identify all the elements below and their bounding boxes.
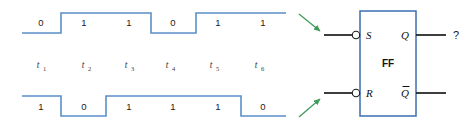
s-input-label: S — [366, 29, 372, 41]
time-label-2-base: t — [82, 60, 85, 70]
q-output-question-mark: ? — [453, 29, 459, 41]
waveform-bottom-path — [22, 96, 286, 116]
time-label-3-base: t — [125, 60, 128, 70]
time-label-6: t 6 — [255, 60, 265, 72]
arrow-to-r-input-line — [299, 99, 320, 117]
time-label-2: t 2 — [82, 60, 92, 72]
waveform-top-value-5: 1 — [215, 17, 220, 28]
waveform-bottom-r: 1 0 1 1 1 0 — [22, 96, 286, 116]
waveform-top-value-4: 0 — [170, 17, 175, 28]
flipflop-input-r: R — [324, 87, 373, 99]
s-inversion-bubble-icon — [352, 31, 359, 38]
waveform-top-value-1: 0 — [38, 17, 43, 28]
waveform-bottom-value-1: 1 — [38, 101, 43, 112]
q-output-label: Q — [401, 29, 409, 41]
time-label-1-sub: 1 — [43, 65, 46, 72]
time-label-4-base: t — [166, 60, 169, 70]
waveform-bottom-value-3: 1 — [126, 101, 131, 112]
flipflop-output-qbar: Q — [401, 87, 446, 100]
arrow-to-s-input-line — [299, 14, 320, 31]
diagram-canvas: 0 1 1 0 1 1 t 1 t 2 t 3 t 4 — [0, 0, 469, 128]
r-input-label: R — [365, 87, 373, 99]
arrow-to-r-input — [299, 99, 320, 117]
qbar-output-label: Q — [401, 87, 409, 99]
waveform-top-value-6: 1 — [260, 17, 265, 28]
waveform-bottom-value-2: 0 — [81, 101, 86, 112]
time-label-1-base: t — [37, 60, 40, 70]
time-label-5-sub: 5 — [216, 65, 219, 72]
time-axis-labels: t 1 t 2 t 3 t 4 t 5 t 6 — [37, 60, 265, 72]
r-inversion-bubble-icon — [352, 89, 359, 96]
time-label-4-sub: 4 — [172, 65, 176, 72]
flipflop-block: FF S R Q ? Q — [324, 11, 459, 116]
flipflop-body-label: FF — [382, 58, 394, 69]
time-label-1: t 1 — [37, 60, 47, 72]
time-label-2-sub: 2 — [88, 65, 91, 72]
time-label-3-sub: 3 — [131, 65, 134, 72]
time-label-5-base: t — [210, 60, 213, 70]
waveform-top-value-3: 1 — [126, 17, 131, 28]
flipflop-output-q: Q ? — [401, 29, 459, 41]
time-label-6-sub: 6 — [261, 65, 265, 72]
flipflop-input-s: S — [324, 29, 372, 41]
waveform-top-s: 0 1 1 0 1 1 — [22, 13, 286, 33]
arrow-to-s-input — [299, 14, 320, 31]
timing-diagram-figure: 0 1 1 0 1 1 t 1 t 2 t 3 t 4 — [0, 0, 469, 128]
waveform-top-path — [22, 13, 286, 33]
time-label-6-base: t — [255, 60, 258, 70]
waveform-top-value-2: 1 — [81, 17, 86, 28]
waveform-bottom-value-4: 1 — [170, 101, 175, 112]
waveform-bottom-value-6: 0 — [260, 101, 265, 112]
time-label-5: t 5 — [210, 60, 220, 72]
time-label-3: t 3 — [125, 60, 135, 72]
time-label-4: t 4 — [166, 60, 176, 72]
waveform-bottom-value-5: 1 — [215, 101, 220, 112]
